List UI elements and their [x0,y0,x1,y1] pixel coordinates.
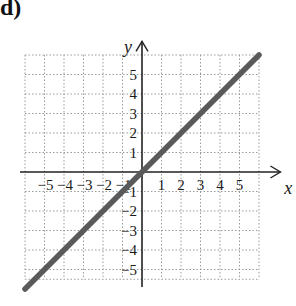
x-tick-label: −3 [77,177,93,193]
x-tick-label: 1 [158,177,166,193]
x-tick-label: 5 [236,177,244,193]
coordinate-plane: −5−4−3−2−112345−5−4−3−2−112345 x y [0,0,296,306]
y-tick-label: −3 [121,223,137,239]
x-tick-label: 4 [216,177,224,193]
y-tick-label: −4 [121,242,137,258]
y-tick-label: 2 [130,125,138,141]
y-tick-label: 4 [130,86,138,102]
y-tick-label: 3 [130,106,138,122]
x-tick-label: −5 [38,177,54,193]
x-tick-label: −4 [57,177,73,193]
x-axis-label: x [283,178,292,198]
x-tick-label: −2 [96,177,112,193]
y-tick-label: −2 [121,203,137,219]
y-tick-label: 1 [130,145,138,161]
y-tick-label: −5 [121,262,137,278]
y-tick-label: 5 [130,67,138,83]
y-axis-label: y [122,37,132,57]
x-tick-label: 3 [197,177,205,193]
x-tick-label: 2 [177,177,185,193]
